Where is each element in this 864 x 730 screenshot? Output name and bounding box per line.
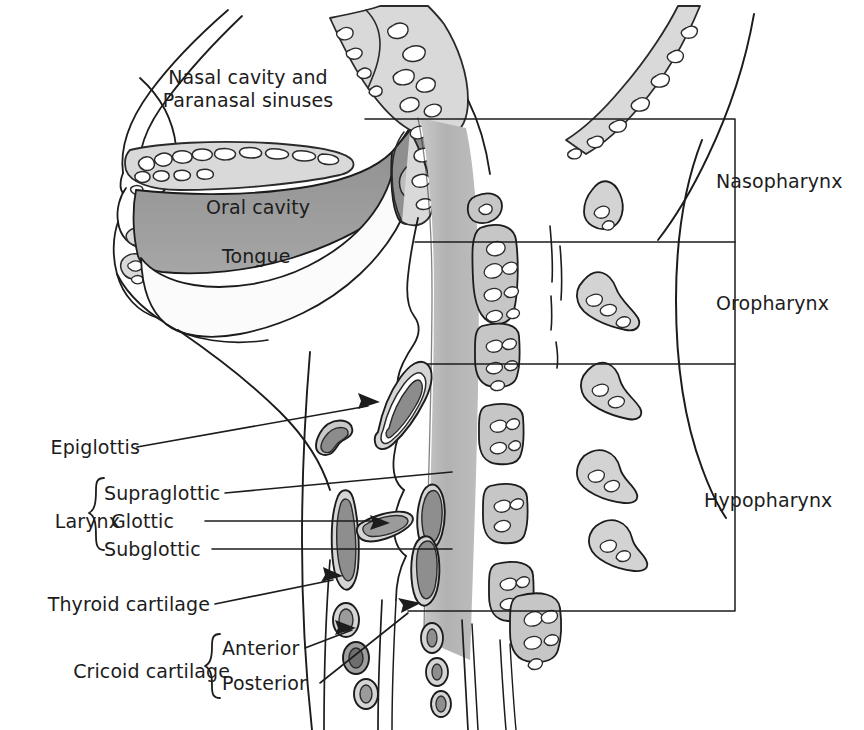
label-subglottic: Subglottic [104, 538, 201, 561]
label-hypopharynx: Hypopharynx [704, 489, 832, 512]
epiglottis [375, 362, 432, 449]
label-glottic: Glottic [111, 510, 174, 533]
label-posterior: Posterior [222, 672, 307, 695]
vocal-cord-glottis [357, 512, 413, 542]
anatomy-illustration [0, 0, 864, 730]
label-oropharynx: Oropharynx [716, 292, 829, 315]
label-supraglottic: Supraglottic [104, 482, 220, 505]
pharynx-bracket-curve [676, 140, 726, 518]
figure-canvas: Nasal cavity and Paranasal sinuses Oral … [0, 0, 864, 730]
label-tongue: Tongue [222, 245, 290, 268]
label-thyroid-cartilage: Thyroid cartilage [0, 593, 210, 616]
label-anterior: Anterior [222, 637, 300, 660]
transverse-process-fragments [550, 226, 562, 368]
spinous-processes [577, 181, 647, 571]
label-cricoid-cartilage: Cricoid cartilage [0, 660, 230, 683]
label-larynx: Larynx [0, 510, 120, 533]
label-nasopharynx: Nasopharynx [716, 170, 843, 193]
label-epiglottis: Epiglottis [0, 436, 140, 459]
label-nasal-cavity: Nasal cavity and Paranasal sinuses [143, 66, 353, 112]
hyoid-bone [316, 421, 352, 455]
cervical-vertebral-bodies [468, 193, 561, 669]
label-oral-cavity: Oral cavity [206, 196, 310, 219]
